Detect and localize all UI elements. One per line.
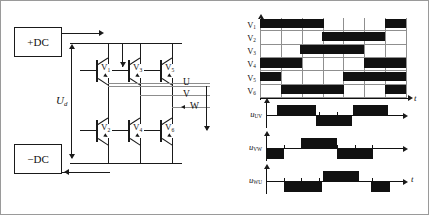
leg-u-bottom-wire — [108, 143, 109, 163]
timing-pulse-v6 — [385, 85, 406, 94]
line-voltage-tick — [372, 145, 373, 149]
leg-u-top-wire — [108, 43, 109, 59]
leg-w-bottom-wire — [172, 143, 173, 163]
line-voltage-y-axis-arrow-icon — [264, 164, 270, 169]
bus-voltage-line — [71, 48, 72, 158]
gate-timing-chart: t V1V2V3V4V5V6 — [232, 14, 422, 102]
negative-rail — [70, 163, 182, 164]
timing-x-axis-label: t — [414, 93, 417, 103]
dc-positive-label: +DC — [27, 36, 48, 48]
line-voltage-label-vw: uVW — [230, 142, 262, 152]
dc-negative-box: −DC — [14, 144, 62, 174]
line-voltage-negative-pulse — [284, 182, 322, 192]
bus-voltage-arrow-down-icon — [69, 154, 75, 159]
transistor-v1-label: V1 — [101, 62, 110, 73]
timing-row-label-v1: V1 — [232, 20, 256, 30]
output-return-wire — [206, 86, 207, 130]
leg-u-mid-wire — [108, 83, 109, 119]
timing-pulse-v3 — [300, 45, 364, 54]
gate-lead-v5 — [144, 70, 153, 71]
output-bus-v — [140, 95, 210, 96]
timing-row-label-v6: V6 — [232, 86, 256, 96]
output-bus-u2 — [108, 86, 210, 87]
timing-row-label-v4: V4 — [232, 59, 256, 69]
line-voltage-label-wu: uWU — [230, 175, 262, 185]
transistor-v6-label: V6 — [165, 122, 174, 133]
figure-root: +DC −DC Ud — [0, 0, 429, 215]
timing-pulse-v5 — [343, 72, 406, 81]
output-return-arrow-icon — [204, 126, 210, 131]
timing-pulse-v1 — [260, 19, 324, 28]
timing-pulse-v5 — [260, 72, 281, 81]
timing-pulse-v2 — [322, 32, 385, 41]
line-voltage-x-axis-arrow-icon — [403, 179, 408, 185]
line-voltage-tick — [372, 178, 373, 182]
leg-v-mid-wire — [140, 83, 141, 119]
output-label-u: U — [183, 78, 190, 88]
line-voltage-tick — [284, 178, 285, 182]
line-voltage-negative-pulse — [371, 182, 390, 192]
line-voltage-y-axis-arrow-icon — [264, 131, 270, 136]
dc-negative-lead — [62, 172, 110, 173]
dc-negative-label: −DC — [27, 153, 48, 165]
gate-lead-v3 — [112, 70, 121, 71]
output-label-w: W — [190, 102, 199, 112]
timing-pulse-v4 — [364, 58, 406, 67]
current-arrow-in-icon — [99, 30, 104, 36]
timing-pulse-v1 — [385, 19, 406, 28]
line-voltage-x-axis-arrow-icon — [403, 146, 408, 152]
gate-lead-v2 — [80, 130, 89, 131]
timing-gridline — [406, 18, 407, 98]
output-w-arrow-icon — [181, 105, 185, 109]
gate-lead-v1 — [80, 70, 89, 71]
line-voltage-tick — [301, 178, 302, 182]
output-bus-u — [108, 83, 210, 84]
bus-voltage-label: Ud — [56, 95, 67, 108]
transistor-v3-label: V3 — [133, 62, 142, 73]
leg-v-top-wire — [140, 43, 141, 59]
timing-x-axis-arrow-icon — [408, 95, 413, 101]
line-voltage-y-axis-arrow-icon — [264, 98, 270, 103]
transistor-v4-label: V4 — [133, 122, 142, 133]
line-voltage-negative-pulse — [337, 149, 373, 159]
timing-row-baseline — [260, 97, 406, 98]
leg-w-mid-wire — [172, 83, 173, 119]
output-label-v: V — [183, 90, 190, 100]
line-voltage-x-axis-label: t — [411, 174, 414, 184]
dc-positive-lead — [62, 33, 102, 34]
gate-lead-v6 — [144, 130, 153, 131]
transistor-v2-label: V2 — [101, 122, 110, 133]
transistor-v5-label: V5 — [165, 62, 174, 73]
line-voltage-tick — [355, 145, 356, 149]
line-voltage-positive-pulse — [353, 105, 388, 115]
line-voltage-x-axis-arrow-icon — [403, 113, 408, 119]
line-voltage-tick — [319, 178, 320, 182]
line-voltage-positive-pulse — [301, 138, 337, 148]
leg-v-bottom-wire — [140, 143, 141, 163]
timing-row-label-v2: V2 — [232, 33, 256, 43]
leg-w-top-wire — [172, 43, 173, 59]
line-voltage-tick — [337, 112, 338, 116]
line-voltage-positive-pulse — [277, 105, 316, 115]
positive-rail — [70, 43, 182, 44]
timing-x-axis — [260, 98, 410, 99]
timing-row-label-v5: V5 — [232, 73, 256, 83]
line-voltage-positive-pulse — [323, 171, 359, 181]
line-voltage-tick — [319, 112, 320, 116]
line-voltage-tick — [284, 145, 285, 149]
current-arrow-out-icon — [64, 169, 69, 175]
bus-voltage-arrow-up-icon — [69, 44, 75, 49]
timing-pulse-v6 — [281, 85, 344, 94]
timing-row-label-v3: V3 — [232, 46, 256, 56]
line-voltage-negative-pulse — [266, 149, 284, 159]
timing-pulse-v4 — [260, 58, 302, 67]
line-voltage-negative-pulse — [316, 116, 352, 126]
line-voltage-x-axis — [266, 148, 404, 149]
gate-lead-v4 — [112, 130, 121, 131]
dc-positive-box: +DC — [14, 27, 62, 57]
line-voltage-label-uv: uUV — [230, 109, 262, 119]
